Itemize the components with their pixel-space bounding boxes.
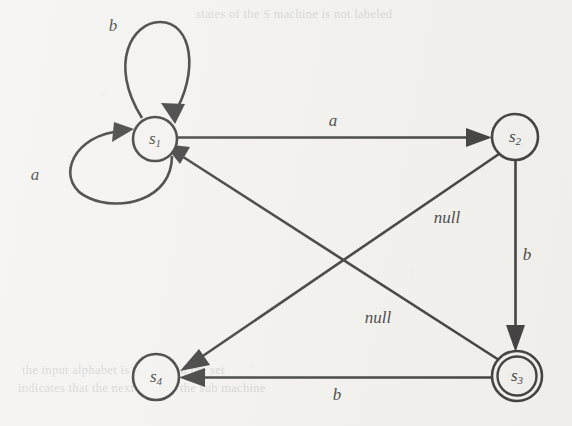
node-s2-label-subscript: 2 (516, 135, 522, 147)
edge-s1-to-s2-arrowhead (466, 128, 492, 147)
state-machine-graph: b a a b b null (0, 0, 572, 426)
edge-label-s3-to-s1: null (365, 308, 392, 327)
node-s1-label-subscript: 1 (156, 137, 162, 149)
edge-b-self-loop-path (125, 22, 189, 118)
edge-b-self-loop[interactable]: b (109, 16, 190, 124)
diagram-canvas: states of the S machine is not labeled t… (0, 0, 572, 426)
edge-label-b-self-loop: b (109, 16, 118, 35)
edge-s3-to-s4[interactable]: b (179, 368, 492, 404)
edge-s1-to-s2[interactable]: a (177, 111, 492, 147)
edge-s3-to-s1-line (177, 153, 499, 360)
node-s1[interactable]: s1 (133, 117, 177, 161)
node-s3[interactable]: s3 (492, 351, 542, 401)
edge-s3-to-s4-arrowhead (179, 368, 205, 387)
node-s2[interactable]: s2 (492, 114, 538, 160)
node-s3-label-subscript: 3 (517, 374, 524, 386)
node-s4[interactable]: s4 (133, 354, 179, 400)
edge-label-s2-to-s3: b (523, 245, 532, 264)
edge-s2-to-s3[interactable]: b (506, 160, 531, 352)
edge-s2-to-s4-arrowhead (180, 349, 210, 371)
edge-a-self-loop-arrowhead (112, 122, 134, 142)
edge-label-a-self-loop: a (31, 165, 40, 184)
edge-label-s2-to-s4: null (434, 208, 461, 227)
edge-s3-to-s1[interactable]: null (164, 144, 499, 360)
edge-s2-to-s3-arrowhead (506, 325, 525, 352)
edge-label-s3-to-s4: b (333, 385, 342, 404)
edge-label-s1-to-s2: a (329, 111, 338, 130)
node-s4-label-subscript: 4 (157, 375, 163, 387)
